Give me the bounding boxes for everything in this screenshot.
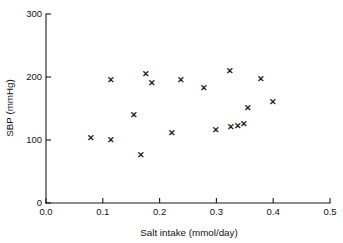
x-tick-label-0.0: 0.0	[39, 206, 52, 217]
data-point: ✕	[177, 75, 185, 85]
axis-ticks	[46, 14, 330, 203]
data-point: ✕	[257, 74, 265, 84]
data-points: ✕✕✕✕✕✕✕✕✕✕✕✕✕✕✕✕✕✕	[87, 66, 277, 160]
y-tick-label-300: 300	[26, 8, 42, 19]
x-tick-label-0.4: 0.4	[267, 206, 280, 217]
scatter-plot-figure: 01002003000.00.10.20.30.40.5 ✕✕✕✕✕✕✕✕✕✕✕…	[0, 0, 343, 243]
data-point: ✕	[212, 125, 220, 135]
y-tick-label-100: 100	[26, 134, 42, 145]
data-point: ✕	[130, 110, 138, 120]
x-tick-label-0.2: 0.2	[153, 206, 166, 217]
data-point: ✕	[148, 78, 156, 88]
y-tick-label-200: 200	[26, 71, 42, 82]
data-point: ✕	[87, 133, 95, 143]
data-point: ✕	[234, 121, 242, 131]
y-axis-title: SBP (mmHg)	[4, 79, 15, 137]
axis-tick-labels: 01002003000.00.10.20.30.40.5	[26, 8, 336, 217]
x-axis-title: Salt intake (mmol/day)	[140, 227, 237, 238]
data-point: ✕	[107, 75, 115, 85]
data-point: ✕	[269, 97, 277, 107]
data-point: ✕	[168, 128, 176, 138]
data-point: ✕	[137, 150, 145, 160]
axes	[46, 14, 330, 203]
data-point: ✕	[244, 103, 252, 113]
data-point: ✕	[107, 135, 115, 145]
data-point: ✕	[200, 83, 208, 93]
plot-canvas: 01002003000.00.10.20.30.40.5 ✕✕✕✕✕✕✕✕✕✕✕…	[0, 0, 343, 243]
x-tick-label-0.1: 0.1	[96, 206, 109, 217]
data-point: ✕	[226, 66, 234, 76]
x-tick-label-0.3: 0.3	[210, 206, 223, 217]
x-tick-label-0.5: 0.5	[323, 206, 336, 217]
